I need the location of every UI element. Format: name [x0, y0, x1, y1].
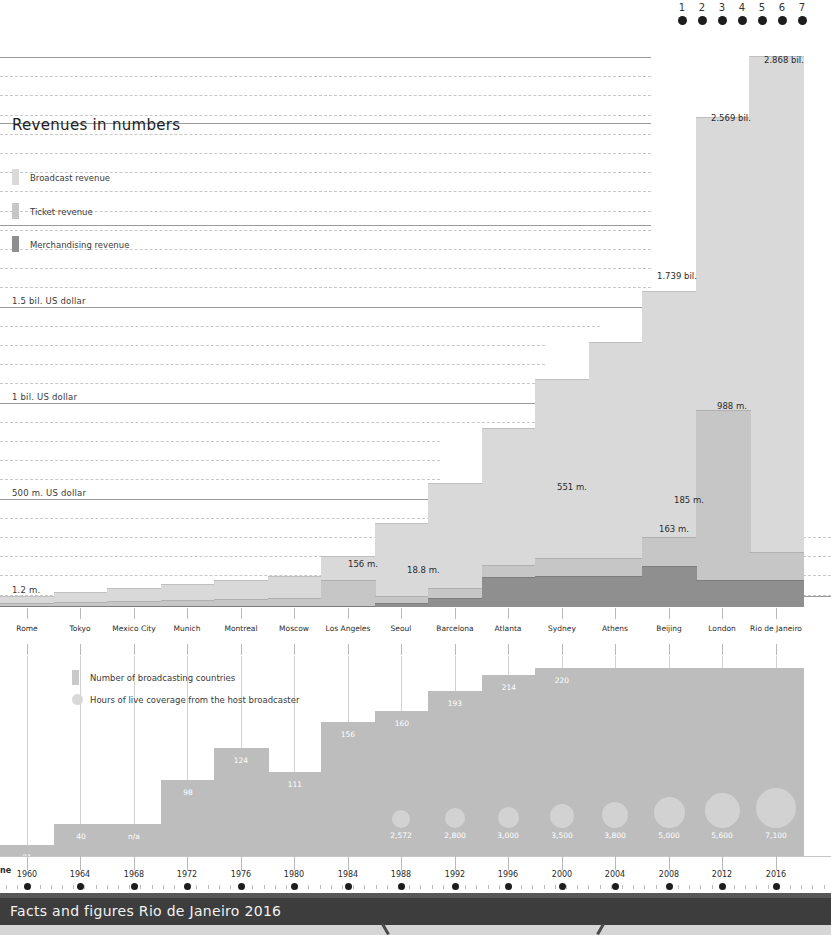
timeline-minor-tick [6, 885, 7, 889]
revenue-bar-merch-beijing [642, 566, 697, 607]
revenue-legend-item-1: Ticket revenue [12, 202, 272, 220]
city-tick-top [27, 608, 28, 619]
city-tick-top [615, 608, 616, 619]
gridline-dashed [0, 518, 440, 519]
timeline-minor-tick [633, 885, 634, 889]
city-tick-bottom [562, 644, 563, 655]
timeline-year-1976: 1976 [216, 870, 266, 879]
timeline-minor-tick [555, 885, 556, 889]
timeline-minor-tick [790, 885, 791, 889]
broadcast-step-label-7: 160 [375, 719, 429, 728]
timeline-dot-1980 [291, 883, 298, 890]
timeline-year-1988: 1988 [376, 870, 426, 879]
timeline-dot-2004 [612, 883, 619, 890]
coverage-bubble-rio-de-janeiro [756, 788, 796, 828]
timeline-year-1964: 1964 [55, 870, 105, 879]
city-axis: RomeTokyoMexico CityMunichMontrealMoscow… [0, 608, 831, 656]
timeline-minor-tick [196, 885, 197, 889]
timeline-stem [241, 856, 242, 870]
timeline-minor-tick [208, 885, 209, 889]
revenue-axis-label-0: 1.5 bil. US dollar [12, 296, 86, 306]
broadcast-step-los-angeles [321, 722, 376, 856]
coverage-bubble-sydney [550, 804, 574, 828]
revenue-value-label-0: 2.868 bil. [764, 55, 804, 65]
city-tick-bottom [722, 644, 723, 655]
gridline-dashed [0, 364, 545, 365]
timeline-minor-tick [577, 885, 578, 889]
timeline-minor-tick [364, 885, 365, 889]
legend-swatch-icon [12, 169, 19, 185]
broadcast-step-label-9: 214 [482, 683, 536, 692]
city-tick-bottom [241, 644, 242, 655]
infographic-page: 1234567 1.5 bil. US dollar1 bil. US doll… [0, 0, 831, 935]
timeline-stem [80, 856, 81, 870]
revenue-value-label-2: 1.739 bil. [657, 271, 697, 281]
timeline-minor-tick [342, 885, 343, 889]
timeline-minor-tick [308, 885, 309, 889]
gridline-dashed [0, 134, 651, 135]
city-tick-top [294, 608, 295, 619]
revenue-legend-item-2: Merchandising revenue [12, 235, 272, 253]
square-swatch-icon [72, 670, 79, 685]
timeline-minor-tick [600, 885, 601, 889]
broadcast-step-label-3: 98 [161, 788, 215, 797]
coverage-bubble-label-3: 3,500 [535, 831, 589, 840]
coverage-bubble-label-0: 2,572 [374, 831, 428, 840]
revenue-bar-broadcast-rio-de-janeiro [749, 56, 804, 607]
gridline-dashed [0, 326, 600, 327]
circle-swatch-icon [72, 694, 83, 705]
broadcast-step-label-10: 220 [535, 676, 589, 685]
broadcast-step-label-8: 193 [428, 699, 482, 708]
revenue-axis-label-2: 500 m. US dollar [12, 488, 86, 498]
gridline-dashed [0, 383, 545, 384]
gridline-dashed [0, 95, 651, 96]
timeline-dot-2012 [719, 883, 726, 890]
broadcast-step-label-4: 124 [214, 756, 268, 765]
timeline-minor-tick [219, 885, 220, 889]
timeline-minor-tick [544, 885, 545, 889]
timeline-minor-tick [264, 885, 265, 889]
city-tick-top [241, 608, 242, 619]
timeline-year-2000: 2000 [537, 870, 587, 879]
coverage-bubble-label-6: 5,600 [695, 831, 749, 840]
timeline-minor-tick [275, 885, 276, 889]
timeline-minor-tick [465, 885, 466, 889]
revenue-bar-merch-sydney [535, 576, 590, 607]
timeline-minor-tick [140, 885, 141, 889]
timeline-minor-tick [712, 885, 713, 889]
city-tick-bottom [508, 644, 509, 655]
revenue-bar-merch-moscow [268, 606, 323, 607]
timeline-year-2004: 2004 [590, 870, 640, 879]
city-tick-top [80, 608, 81, 619]
city-tick-top [187, 608, 188, 619]
city-tick-top [134, 608, 135, 619]
timeline-minor-tick [17, 885, 18, 889]
broadcast-legend-item-1: Hours of live coverage from the host bro… [72, 692, 392, 708]
coverage-bubble-barcelona [445, 808, 465, 828]
timeline-minor-tick [532, 885, 533, 889]
revenue-bar-merch-tokyo [54, 606, 109, 607]
city-tick-bottom [615, 644, 616, 655]
timeline-dot-1984 [345, 883, 352, 890]
timeline-minor-tick [152, 885, 153, 889]
timeline-dot-2016 [773, 883, 780, 890]
timeline-minor-tick [521, 885, 522, 889]
city-tick-bottom [455, 644, 456, 655]
timeline-minor-tick [230, 885, 231, 889]
city-tick-bottom [187, 644, 188, 655]
gridline-dashed [0, 345, 545, 346]
revenue-value-label-1: 2.569 bil. [711, 113, 751, 123]
timeline-minor-tick [353, 885, 354, 889]
city-tick-top [508, 608, 509, 619]
revenue-axis-label-1: 1 bil. US dollar [12, 392, 77, 402]
timeline-minor-tick [420, 885, 421, 889]
timeline-year-2016: 2016 [751, 870, 801, 879]
timeline-minor-tick [700, 885, 701, 889]
revenue-bar-merch-mexico-city [107, 606, 162, 607]
city-tick-bottom [80, 644, 81, 655]
city-tick-top [776, 608, 777, 619]
timeline-minor-tick [588, 885, 589, 889]
timeline-stem [27, 856, 28, 870]
broadcast-step-label-1: 40 [54, 832, 108, 841]
timeline-minor-tick [756, 885, 757, 889]
